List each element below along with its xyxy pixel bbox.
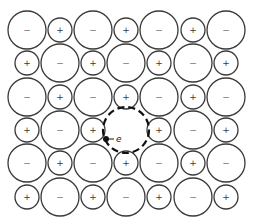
cation: + — [147, 185, 171, 209]
f-center-lattice-diagram: −+−+−+−+−+−+−+−+−+−+−+−++−+−+−+−+−+−+−+−… — [0, 0, 253, 224]
vacancy-dashed-circle — [103, 107, 149, 153]
plus-sign: + — [89, 192, 97, 202]
cation: + — [81, 118, 105, 142]
minus-sign: − — [89, 158, 97, 168]
anion: − — [207, 144, 245, 182]
cation: + — [147, 118, 171, 142]
cation: + — [147, 51, 171, 75]
anion: − — [74, 144, 112, 182]
minus-sign: − — [222, 25, 230, 35]
cation: + — [114, 18, 138, 42]
plus-sign: + — [89, 125, 97, 135]
cation: + — [15, 118, 39, 142]
cation: + — [114, 151, 138, 175]
plus-sign: + — [222, 125, 230, 135]
cation: + — [214, 118, 238, 142]
minus-sign: − — [155, 92, 163, 102]
plus-sign: + — [23, 192, 31, 202]
anion: − — [140, 78, 178, 116]
electron-dot-icon — [103, 136, 109, 142]
cation: + — [181, 85, 205, 109]
plus-sign: + — [155, 192, 163, 202]
plus-sign: + — [122, 158, 130, 168]
cation: + — [48, 18, 72, 42]
anion: − — [41, 44, 79, 82]
anion: − — [207, 11, 245, 49]
plus-sign: + — [155, 125, 163, 135]
minus-sign: − — [56, 125, 64, 135]
cation: + — [81, 185, 105, 209]
minus-sign: − — [222, 92, 230, 102]
anion: − — [107, 44, 145, 82]
anion: − — [41, 111, 79, 149]
minus-sign: − — [189, 125, 197, 135]
minus-sign: − — [89, 25, 97, 35]
minus-sign: − — [155, 25, 163, 35]
minus-sign: − — [23, 25, 31, 35]
cation: + — [15, 185, 39, 209]
anion: − — [41, 178, 79, 216]
plus-sign: + — [56, 25, 64, 35]
anion: − — [140, 144, 178, 182]
cation: + — [81, 51, 105, 75]
minus-sign: − — [222, 158, 230, 168]
anion: − — [74, 11, 112, 49]
plus-sign: + — [222, 58, 230, 68]
anion: − — [207, 78, 245, 116]
minus-sign: − — [56, 58, 64, 68]
minus-sign: − — [189, 192, 197, 202]
cation: + — [48, 85, 72, 109]
cation: + — [214, 185, 238, 209]
plus-sign: + — [155, 58, 163, 68]
plus-sign: + — [23, 125, 31, 135]
anion: − — [174, 44, 212, 82]
plus-sign: + — [122, 25, 130, 35]
minus-sign: − — [122, 192, 130, 202]
plus-sign: + — [222, 192, 230, 202]
anion: − — [74, 78, 112, 116]
anion: − — [8, 11, 46, 49]
anion: − — [107, 178, 145, 216]
cation: + — [181, 151, 205, 175]
plus-sign: + — [189, 158, 197, 168]
anion: − — [174, 178, 212, 216]
plus-sign: + — [56, 92, 64, 102]
plus-sign: + — [56, 158, 64, 168]
minus-sign: − — [56, 192, 64, 202]
plus-sign: + — [189, 25, 197, 35]
anion: − — [140, 11, 178, 49]
plus-sign: + — [23, 58, 31, 68]
anion: − — [174, 111, 212, 149]
minus-sign: − — [122, 58, 130, 68]
electron-label: e — [116, 134, 122, 144]
plus-sign: + — [189, 92, 197, 102]
cation: + — [214, 51, 238, 75]
plus-sign: + — [122, 92, 130, 102]
anion: − — [8, 144, 46, 182]
ion-grid: −+−+−+−+−+−+−+−+−+−+−+−++−+−+−+−+−+−+−+−… — [8, 11, 245, 216]
lattice-svg: −+−+−+−+−+−+−+−+−+−+−+−++−+−+−+−+−+−+−+−… — [0, 0, 253, 224]
anion-vacancy — [103, 107, 149, 153]
cation: + — [114, 85, 138, 109]
cation: + — [48, 151, 72, 175]
minus-sign: − — [189, 58, 197, 68]
minus-sign: − — [23, 92, 31, 102]
cation: + — [15, 51, 39, 75]
cation: + — [181, 18, 205, 42]
minus-sign: − — [155, 158, 163, 168]
anion: − — [8, 78, 46, 116]
minus-sign: − — [89, 92, 97, 102]
plus-sign: + — [89, 58, 97, 68]
minus-sign: − — [23, 158, 31, 168]
